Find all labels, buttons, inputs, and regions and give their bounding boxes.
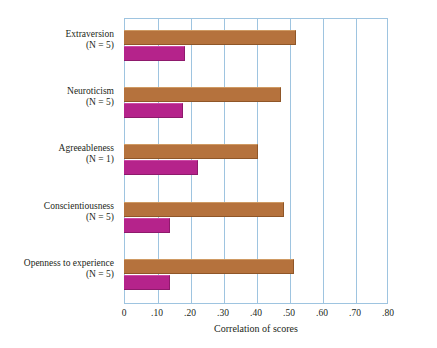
category-sample-size: (N = 5) [0,212,114,223]
category-sample-size: (N = 5) [0,40,114,51]
category-sample-size: (N = 1) [0,154,114,165]
x-axis-tick-label: .70 [349,307,361,319]
category-name: Conscientiousness [0,201,114,212]
x-axis-tick-label: .50 [283,307,295,319]
category-name: Neuroticism [0,86,114,97]
bar-group [124,30,388,62]
category-sample-size: (N = 5) [0,269,114,280]
bar-chart-figure: Extraversion(N = 5)Neuroticism(N = 5)Agr… [0,0,437,348]
category-sample-size: (N = 5) [0,97,114,108]
y-axis-labels: Extraversion(N = 5)Neuroticism(N = 5)Agr… [0,18,120,304]
x-axis-tick-label: .20 [184,307,196,319]
x-axis-tick-label: .30 [217,307,229,319]
category-name: Openness to experience [0,258,114,269]
bar-brown [124,259,294,274]
y-axis-tick-label: Extraversion(N = 5) [0,29,114,51]
x-axis-tick-label: .80 [382,307,394,319]
bar-magenta [124,275,170,290]
category-name: Extraversion [0,29,114,40]
y-axis-tick-label: Agreeableness(N = 1) [0,143,114,165]
bar-brown [124,202,284,217]
x-axis-tick-label: 0 [122,307,127,319]
category-name: Agreeableness [0,143,114,154]
bar-group [124,87,388,119]
x-axis-tick-labels: 0.10.20.30.40.50.60.70.80 [0,307,437,323]
bar-magenta [124,46,185,61]
bar-brown [124,87,281,102]
bar-magenta [124,103,183,118]
bar-magenta [124,218,170,233]
bars-layer [124,18,388,304]
y-axis-tick-label: Neuroticism(N = 5) [0,86,114,108]
bar-group [124,259,388,291]
bar-group [124,144,388,176]
bar-group [124,202,388,234]
x-axis-tick-label: .10 [151,307,163,319]
x-axis-title: Correlation of scores [124,323,388,334]
x-axis-tick-label: .40 [250,307,262,319]
bar-brown [124,30,296,45]
y-axis-tick-label: Conscientiousness(N = 5) [0,201,114,223]
y-axis-tick-label: Openness to experience(N = 5) [0,258,114,280]
bar-brown [124,144,258,159]
x-axis-tick-label: .60 [316,307,328,319]
bar-magenta [124,160,198,175]
